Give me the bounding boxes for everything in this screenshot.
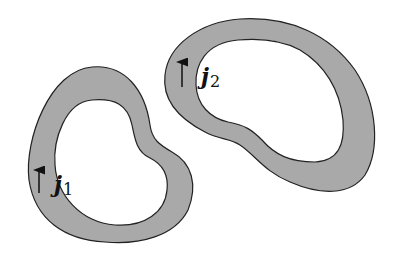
- loop-2-band: [165, 19, 375, 192]
- current-density-label-2: j2: [197, 63, 220, 91]
- current-density-label-1: j1: [50, 171, 73, 199]
- loop-2: j2: [165, 19, 375, 192]
- two-current-loops-diagram: j1 j2: [0, 0, 403, 259]
